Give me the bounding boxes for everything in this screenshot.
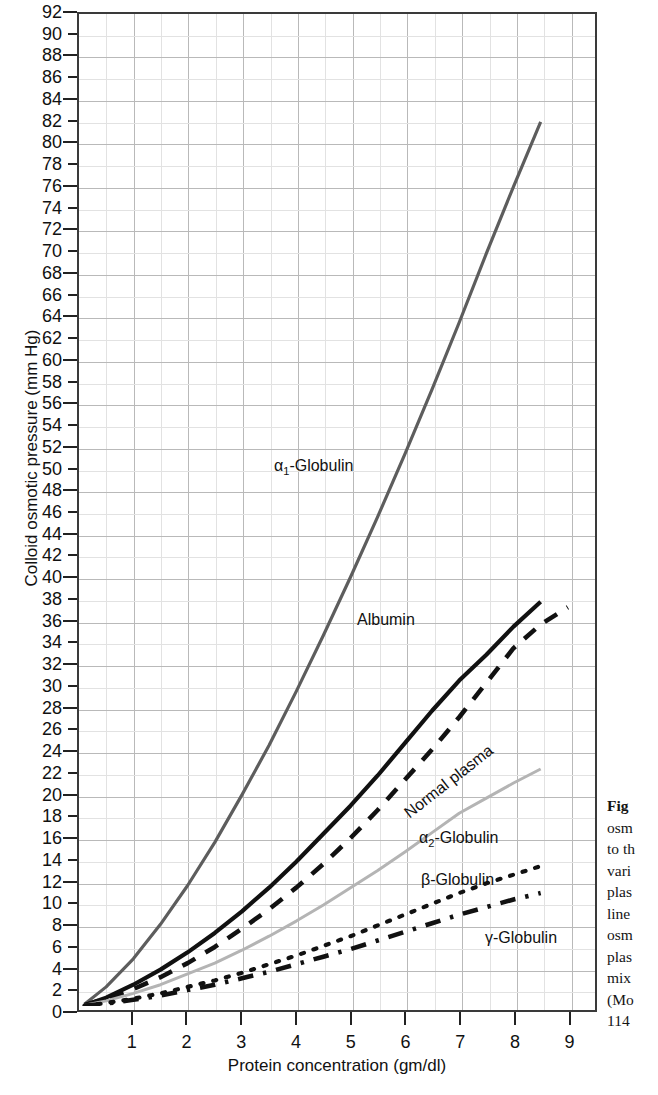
y-tick-label: 20 [6,786,62,804]
y-tick-mark [68,859,77,861]
y-tick-mark [68,511,77,513]
y-tick-label: 84 [6,90,62,108]
y-tick-mark [63,707,77,709]
y-tick-label: 74 [6,199,62,217]
y-tick-mark [63,1011,77,1013]
y-tick-mark [68,989,77,991]
y-tick-label: 76 [6,177,62,195]
y-tick-label: 50 [6,460,62,478]
y-tick-mark [63,533,77,535]
y-tick-label: 42 [6,546,62,564]
x-tick-label: 5 [331,1032,371,1052]
y-tick-mark [68,598,77,600]
y-tick-mark [68,207,77,209]
y-tick-mark [68,424,77,426]
curve-albumin [84,602,540,1005]
y-tick-mark [68,337,77,339]
y-tick-label: 10 [6,894,62,912]
y-tick-mark [68,381,77,383]
curve-label-albumin: Albumin [357,611,415,629]
y-tick-label: 46 [6,503,62,521]
figure-root: Colloid osmotic pressure (mm Hg) 0246810… [0,0,658,1095]
x-tick-mark [295,1012,297,1025]
y-tick-mark [68,815,77,817]
plot-area: α1-Globulin Albumin Normal plasma α2-Glo… [77,12,597,1012]
y-tick-label: 88 [6,46,62,64]
y-tick-mark [63,837,77,839]
x-tick-label: 1 [112,1032,152,1052]
y-tick-mark [68,772,77,774]
y-tick-label: 90 [6,25,62,43]
caption-line: plas [607,881,658,903]
curve-label-alpha2-globulin: α2-Globulin [419,829,498,849]
y-tick-label: 78 [6,155,62,173]
alpha1-suffix: -Globulin [289,457,353,474]
y-tick-mark [68,294,77,296]
x-tick-mark [514,1012,516,1025]
y-tick-label: 30 [6,677,62,695]
y-tick-mark [68,685,77,687]
y-tick-mark [63,315,77,317]
x-tick-label: 8 [495,1032,535,1052]
y-tick-mark [63,11,77,13]
curve-label-alpha1-globulin: α1-Globulin [274,457,353,477]
x-axis-title: Protein concentration (gm/dl) [77,1056,597,1076]
y-tick-mark [63,968,77,970]
y-tick-label: 48 [6,481,62,499]
y-tick-label: 64 [6,307,62,325]
caption-line: plas [607,946,658,968]
y-tick-label: 12 [6,873,62,891]
y-tick-mark [63,54,77,56]
y-tick-mark [68,76,77,78]
y-tick-label: 68 [6,264,62,282]
y-tick-mark [68,641,77,643]
caption-line: to th [607,838,658,860]
caption-line: line [607,903,658,925]
alpha2-suffix: -Globulin [434,829,498,846]
y-tick-mark [63,576,77,578]
x-tick-mark [185,1012,187,1025]
y-tick-label: 44 [6,525,62,543]
y-tick-label: 82 [6,112,62,130]
x-tick-label: 6 [385,1032,425,1052]
y-tick-mark [68,554,77,556]
caption-lead: Fig [607,795,658,817]
y-tick-label: 86 [6,68,62,86]
y-tick-label: 58 [6,373,62,391]
y-tick-mark [63,489,77,491]
x-tick-mark [569,1012,571,1025]
x-tick-mark [404,1012,406,1025]
curve-layer [79,14,595,1006]
y-tick-label: 14 [6,851,62,869]
y-tick-mark [63,185,77,187]
alpha-glyph: α [274,457,283,474]
y-tick-label: 6 [6,938,62,956]
y-tick-label: 4 [6,960,62,978]
y-tick-label: 24 [6,742,62,760]
y-tick-label: 18 [6,807,62,825]
y-tick-mark [63,924,77,926]
y-tick-mark [63,620,77,622]
curve-label-gamma-globulin: γ-Globulin [485,929,557,947]
y-tick-label: 60 [6,351,62,369]
y-tick-mark [68,946,77,948]
y-tick-mark [68,120,77,122]
y-tick-mark [68,728,77,730]
y-tick-mark [63,272,77,274]
y-tick-mark [68,468,77,470]
y-tick-label: 62 [6,329,62,347]
y-tick-label: 36 [6,612,62,630]
caption-line: osm [607,924,658,946]
y-tick-label: 34 [6,633,62,651]
y-axis-tick-labels: 0246810121416182022242628303234363840424… [0,0,62,1095]
caption-line: vari [607,860,658,882]
x-tick-label: 2 [166,1032,206,1052]
y-tick-mark [63,881,77,883]
y-tick-mark [63,359,77,361]
x-tick-label: 9 [550,1032,590,1052]
x-tick-mark [131,1012,133,1025]
caption-line: osm [607,817,658,839]
y-tick-mark [63,750,77,752]
y-tick-label: 28 [6,699,62,717]
x-tick-mark [240,1012,242,1025]
